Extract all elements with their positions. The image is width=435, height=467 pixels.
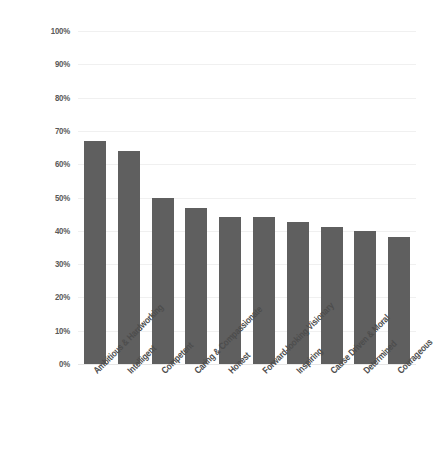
y-axis-tick-label: 0% bbox=[21, 358, 70, 369]
y-axis-tick-label: 90% bbox=[21, 58, 70, 69]
y-axis-tick-label: 80% bbox=[21, 92, 70, 103]
y-axis-tick-label: 60% bbox=[21, 158, 70, 169]
y-axis-tick-label: 10% bbox=[21, 325, 70, 336]
y-axis-tick-label: 30% bbox=[21, 258, 70, 269]
bar bbox=[152, 198, 174, 365]
x-axis-tick-labels: Ambitious & HardworkingIntelligentCompet… bbox=[78, 368, 416, 467]
y-axis-tick-label: 20% bbox=[21, 291, 70, 302]
y-axis-tick-label: 40% bbox=[21, 225, 70, 236]
bar bbox=[84, 141, 106, 364]
bar bbox=[321, 227, 343, 364]
bar bbox=[253, 217, 275, 364]
y-axis-tick-label: 50% bbox=[21, 192, 70, 203]
y-axis-tick-label: 100% bbox=[21, 25, 70, 36]
y-axis-tick-label: 70% bbox=[21, 125, 70, 136]
